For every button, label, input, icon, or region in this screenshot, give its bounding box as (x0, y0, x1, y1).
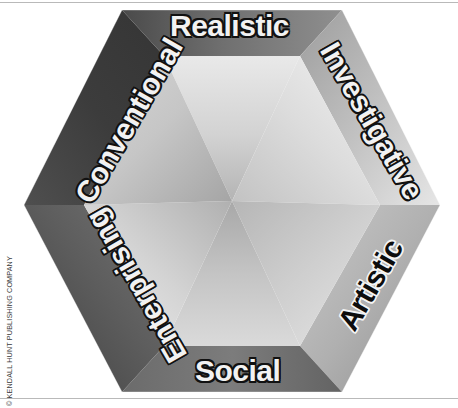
bottom-divider-rule (0, 398, 458, 399)
riasec-hexagon-figure: Realistic Investigative Artistic Social … (0, 0, 458, 408)
top-divider-rule (0, 2, 458, 3)
publisher-credit: © KENDALL HUNT PUBLISHING COMPANY (4, 272, 16, 406)
hexagon-svg (24, 10, 440, 392)
hexagon-graphic (24, 10, 440, 392)
